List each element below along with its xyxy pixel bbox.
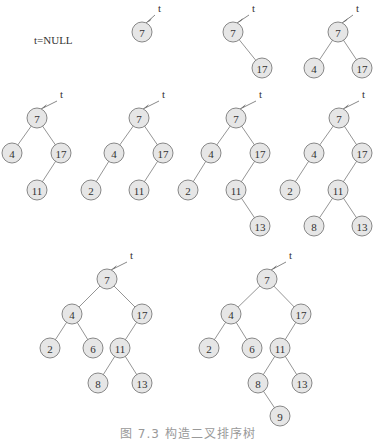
- tree-node: 4: [2, 143, 22, 163]
- tree-node: 2: [280, 180, 300, 200]
- tree-node: 17: [352, 143, 372, 163]
- tree-node: 8: [304, 216, 324, 236]
- tree-node: 7: [129, 108, 149, 128]
- figure-caption: 图 7.3 构造二叉排序树: [120, 424, 256, 441]
- tree-node: 7: [132, 22, 152, 42]
- node-value: 4: [9, 148, 15, 160]
- pointer-label: t: [158, 2, 161, 14]
- node-value: 7: [136, 113, 142, 125]
- node-value: 7: [34, 113, 40, 125]
- node-value: 13: [357, 221, 369, 233]
- node-value: 2: [185, 185, 191, 197]
- node-value: 11: [231, 185, 242, 197]
- tree-step-8: t74172611813: [40, 249, 152, 393]
- tree-step-5: t7417211: [81, 88, 173, 200]
- node-value: 11: [115, 343, 126, 355]
- tree-step-1: t7: [132, 2, 161, 42]
- tree-node: 8: [248, 373, 268, 393]
- tree-node: 4: [221, 304, 241, 324]
- tree-node: 7: [257, 269, 277, 289]
- pointer-label: t: [60, 88, 63, 100]
- node-value: 7: [104, 274, 110, 286]
- pointer-label: t: [289, 249, 292, 261]
- tree-node: 7: [329, 108, 349, 128]
- node-value: 17: [257, 63, 269, 75]
- node-value: 11: [275, 343, 286, 355]
- node-value: 13: [297, 378, 309, 390]
- tree-node: 11: [328, 180, 348, 200]
- node-value: 8: [255, 378, 261, 390]
- tree-node: 17: [291, 304, 311, 324]
- tree-node: 11: [270, 338, 290, 358]
- tree-node: 2: [81, 180, 101, 200]
- node-value: 9: [277, 411, 283, 423]
- tree-node: 17: [250, 143, 270, 163]
- tree-node: 17: [252, 58, 272, 78]
- tree-node: 11: [129, 180, 149, 200]
- node-value: 4: [228, 309, 234, 321]
- pointer-label: t: [252, 2, 255, 14]
- tree-step-9: t741726118139: [199, 249, 312, 426]
- tree-step-4: t741711: [2, 88, 71, 200]
- tree-node: 4: [201, 143, 221, 163]
- tree-node: 17: [153, 143, 173, 163]
- node-value: 6: [90, 343, 96, 355]
- tree-node: 13: [352, 216, 372, 236]
- node-value: 4: [311, 63, 317, 75]
- node-value: 11: [32, 185, 43, 197]
- pointer-label: t: [130, 249, 133, 261]
- tree-node: 8: [88, 373, 108, 393]
- pointer-label: t: [259, 88, 262, 100]
- pointer-label: t: [162, 88, 165, 100]
- node-value: 2: [47, 343, 53, 355]
- node-value: 4: [311, 148, 317, 160]
- tree-node: 17: [132, 304, 152, 324]
- tree-node: 2: [199, 338, 219, 358]
- tree-node: 11: [27, 180, 47, 200]
- node-value: 4: [69, 309, 75, 321]
- node-value: 2: [287, 185, 293, 197]
- tree-node: 7: [223, 22, 243, 42]
- pointer-arrow: [146, 15, 155, 23]
- pointer-label: t: [356, 2, 359, 14]
- tree-node: 11: [226, 180, 246, 200]
- node-value: 8: [95, 378, 101, 390]
- tree-node: 13: [292, 373, 312, 393]
- node-value: 6: [249, 343, 255, 355]
- node-value: 13: [137, 378, 149, 390]
- tree-node: 7: [328, 22, 348, 42]
- tree-node: 7: [226, 108, 246, 128]
- tree-node: 7: [27, 108, 47, 128]
- tree-step-3: t7417: [304, 2, 372, 78]
- node-value: 17: [357, 63, 369, 75]
- tree-node: 7: [97, 269, 117, 289]
- node-value: 17: [296, 309, 308, 321]
- tree-node: 6: [242, 338, 262, 358]
- node-value: 7: [335, 27, 341, 39]
- tree-step-7: t7417211813: [280, 88, 372, 236]
- node-value: 4: [208, 148, 214, 160]
- tree-node: 4: [62, 304, 82, 324]
- tree-node: 11: [110, 338, 130, 358]
- node-value: 13: [255, 221, 267, 233]
- tree-node: 4: [304, 143, 324, 163]
- node-value: 4: [111, 148, 117, 160]
- tree-step-6: t741721113: [178, 88, 270, 236]
- node-value: 17: [158, 148, 170, 160]
- pointer-arrow: [41, 101, 57, 109]
- node-value: 7: [264, 274, 270, 286]
- tree-node: 4: [104, 143, 124, 163]
- tree-node: 6: [83, 338, 103, 358]
- node-value: 17: [137, 309, 149, 321]
- tree-node: 17: [51, 143, 71, 163]
- node-value: 2: [206, 343, 212, 355]
- tree-node: 2: [40, 338, 60, 358]
- node-value: 17: [56, 148, 68, 160]
- tree-step-2: t717: [223, 2, 272, 78]
- pointer-label: t: [362, 88, 365, 100]
- node-value: 7: [336, 113, 342, 125]
- node-value: 7: [233, 113, 239, 125]
- tree-node: 4: [304, 58, 324, 78]
- node-value: 11: [333, 185, 344, 197]
